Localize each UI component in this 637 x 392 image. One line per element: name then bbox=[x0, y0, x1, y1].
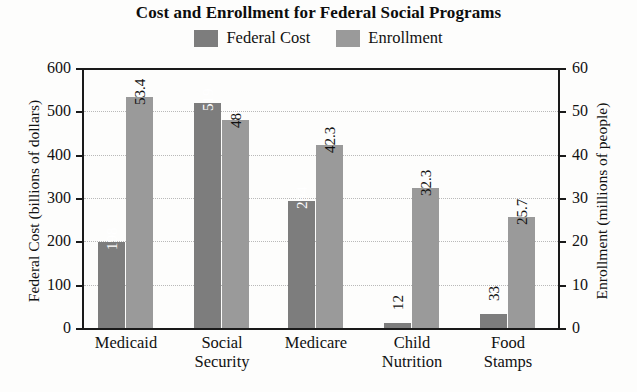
axis-tick-label-left: 300 bbox=[25, 190, 71, 206]
legend-item-federal-cost: Federal Cost bbox=[194, 28, 310, 48]
bar-enroll[interactable]: 25.7 bbox=[508, 217, 535, 328]
bar-cost[interactable]: 33 bbox=[480, 314, 507, 328]
axis-tick-label-left: 400 bbox=[25, 147, 71, 163]
axis-tick-label-left: 200 bbox=[25, 233, 71, 249]
bar-enroll[interactable]: 42.3 bbox=[316, 145, 343, 328]
plot-area: 0100200300400500600 0102030405060 19853.… bbox=[82, 68, 560, 330]
axis-tick-label-right: 60 bbox=[572, 60, 612, 76]
axis-tick-left bbox=[76, 68, 84, 70]
x-axis-label-social-security: SocialSecurity bbox=[169, 333, 275, 372]
axis-tick-label-right: 50 bbox=[572, 103, 612, 119]
bar-value-label: 12 bbox=[390, 295, 405, 310]
bar-cost[interactable]: 519 bbox=[194, 103, 221, 328]
legend-label-federal-cost: Federal Cost bbox=[226, 28, 310, 48]
bar-enroll[interactable]: 32.3 bbox=[412, 188, 439, 328]
axis-tick-label-left: 100 bbox=[25, 277, 71, 293]
axis-tick-right bbox=[558, 198, 566, 200]
bar-value-label: 32.3 bbox=[418, 170, 433, 196]
bar-value-label: 198 bbox=[104, 228, 119, 251]
x-axis-label-food-stamps: FoodStamps bbox=[455, 333, 561, 372]
bar-value-label: 294 bbox=[294, 186, 309, 209]
x-axis-label-medicare: Medicare bbox=[263, 333, 369, 352]
x-axis-label-medicaid: Medicaid bbox=[73, 333, 179, 352]
bar-cost[interactable]: 12 bbox=[384, 323, 411, 328]
bar-value-label: 25.7 bbox=[514, 198, 529, 224]
legend-swatch-federal-cost bbox=[194, 30, 218, 47]
axis-tick-left bbox=[76, 111, 84, 113]
bar-value-label: 519 bbox=[200, 89, 215, 112]
gridline bbox=[84, 68, 558, 70]
axis-tick-label-right: 40 bbox=[572, 147, 612, 163]
axis-tick-right bbox=[558, 285, 566, 287]
x-axis-category-labels: MedicaidSocialSecurityMedicareChildNutri… bbox=[82, 333, 556, 388]
bar-cost[interactable]: 294 bbox=[288, 201, 315, 328]
axis-tick-left bbox=[76, 328, 84, 330]
bar-value-label: 53.4 bbox=[132, 78, 147, 104]
bar-value-label: 42.3 bbox=[322, 126, 337, 152]
legend-swatch-enrollment bbox=[336, 30, 360, 47]
bar-value-label: 48 bbox=[228, 113, 243, 128]
bar-enroll[interactable]: 53.4 bbox=[126, 97, 153, 328]
legend-label-enrollment: Enrollment bbox=[368, 28, 442, 48]
axis-tick-label-right: 0 bbox=[572, 320, 612, 336]
x-axis-label-child-nutrition: ChildNutrition bbox=[359, 333, 465, 372]
axis-tick-right bbox=[558, 328, 566, 330]
chart-figure: Cost and Enrollment for Federal Social P… bbox=[0, 0, 637, 392]
axis-tick-label-left: 500 bbox=[25, 103, 71, 119]
axis-tick-right bbox=[558, 111, 566, 113]
legend-item-enrollment: Enrollment bbox=[336, 28, 442, 48]
axis-tick-left bbox=[76, 155, 84, 157]
axis-tick-label-left: 0 bbox=[25, 320, 71, 336]
bar-enroll[interactable]: 48 bbox=[222, 120, 249, 328]
axis-tick-label-right: 10 bbox=[572, 277, 612, 293]
axis-tick-left bbox=[76, 241, 84, 243]
axis-tick-label-right: 30 bbox=[572, 190, 612, 206]
axis-tick-right bbox=[558, 68, 566, 70]
bar-value-label: 33 bbox=[486, 286, 501, 301]
bar-cost[interactable]: 198 bbox=[98, 242, 125, 328]
axis-tick-right bbox=[558, 241, 566, 243]
axis-tick-left bbox=[76, 285, 84, 287]
chart-title: Cost and Enrollment for Federal Social P… bbox=[0, 3, 637, 23]
axis-tick-right bbox=[558, 155, 566, 157]
axis-tick-label-left: 600 bbox=[25, 60, 71, 76]
chart-legend: Federal Cost Enrollment bbox=[0, 28, 637, 48]
gridline bbox=[84, 111, 558, 112]
axis-tick-label-right: 20 bbox=[572, 233, 612, 249]
axis-tick-left bbox=[76, 198, 84, 200]
